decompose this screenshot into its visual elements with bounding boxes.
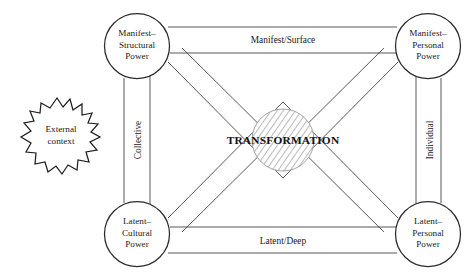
figure-canvas: Manifest– Structural Power Manifest– Per… (0, 0, 466, 278)
node-manifest-structural: Manifest– Structural Power (105, 14, 170, 79)
node-label-line3: Power (125, 51, 148, 61)
node-label-line1: Latent– (414, 216, 442, 226)
edge-label-right: Individual (422, 114, 436, 166)
node-latent-cultural: Latent– Cultural Power (105, 202, 170, 267)
node-manifest-personal: Manifest– Personal Power (396, 14, 461, 79)
edge-label-right-text: Individual (425, 120, 435, 159)
edge-label-bottom-text: Latent/Deep (260, 236, 307, 246)
edge-label-left-text: Collective (133, 121, 143, 160)
node-label-line2: Personal (412, 228, 444, 238)
edge-label-left: Collective (130, 113, 144, 167)
center-label: TRANSFORMATION (227, 134, 340, 146)
node-label-line2: Structural (119, 40, 156, 50)
node-label-line2: Personal (412, 40, 444, 50)
node-label-line3: Power (416, 239, 439, 249)
power-transformation-diagram: Manifest– Structural Power Manifest– Per… (0, 0, 466, 278)
node-label-line2: Cultural (122, 228, 153, 238)
edge-label-bottom: Latent/Deep (244, 233, 324, 247)
node-label-line3: Power (416, 51, 439, 61)
edge-label-top-text: Manifest/Surface (251, 35, 316, 45)
edge-label-top: Manifest/Surface (232, 32, 336, 46)
node-latent-personal: Latent– Personal Power (396, 202, 461, 267)
external-context-line2: context (47, 136, 74, 146)
node-label-line1: Manifest– (118, 28, 156, 38)
node-label-line1: Latent– (123, 216, 151, 226)
external-context-burst: External context (21, 98, 100, 174)
node-label-line3: Power (125, 239, 148, 249)
external-context-line1: External (45, 124, 77, 134)
node-label-line1: Manifest– (409, 28, 447, 38)
